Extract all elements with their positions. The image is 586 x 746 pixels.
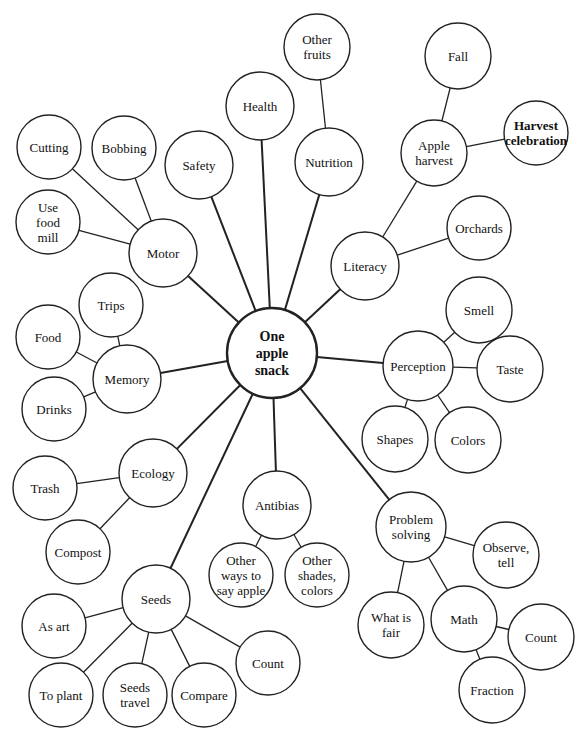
node-shapes: Shapes	[362, 406, 428, 472]
edge-perception-to-shapes	[405, 399, 408, 407]
node-label: ways to	[221, 568, 261, 583]
node-antibias: Antibias	[243, 471, 311, 539]
node-label: Other	[302, 553, 332, 568]
edge-antibias-to-other-shades	[294, 535, 301, 548]
edge-seeds-to-count-seeds	[186, 616, 241, 647]
edge-memory-to-trips	[118, 336, 120, 346]
edge-motor-to-bobbing	[135, 178, 151, 221]
node-orchards: Orchards	[447, 196, 511, 260]
edge-motor-to-use-food-mill	[79, 230, 130, 244]
node-literacy: Literacy	[331, 232, 399, 300]
node-label: Problem	[389, 512, 433, 527]
node-fraction: Fraction	[459, 657, 525, 723]
node-label: Taste	[496, 362, 523, 377]
node-label: To plant	[40, 688, 83, 703]
node-observe-tell: Observe,tell	[473, 522, 539, 588]
edge-center-to-perception	[317, 357, 383, 363]
node-label: Fraction	[470, 683, 514, 698]
node-label: One	[260, 329, 285, 344]
center-node: Oneapplesnack	[227, 308, 317, 398]
edge-literacy-to-orchards	[397, 238, 448, 255]
node-label: Bobbing	[102, 141, 147, 156]
node-label: Trash	[30, 481, 60, 496]
node-label: What is	[371, 610, 411, 625]
edge-ecology-to-trash	[77, 478, 120, 484]
node-label: Seeds	[120, 680, 150, 695]
edge-problem-solving-to-math	[429, 557, 448, 590]
node-label: Harvest	[514, 118, 559, 133]
node-label: Perception	[390, 359, 446, 374]
node-label: fruits	[303, 47, 330, 62]
edge-center-to-safety	[211, 197, 255, 311]
node-label: say apple	[217, 583, 266, 598]
node-food: Food	[16, 305, 80, 369]
node-label: celebration	[505, 133, 568, 148]
node-memory: Memory	[93, 345, 161, 413]
edge-seeds-to-compare	[171, 629, 190, 666]
node-label: Orchards	[455, 221, 503, 236]
node-other-ways: Otherways tosay apple	[209, 543, 273, 607]
node-label: mill	[38, 230, 59, 245]
edge-seeds-to-as-art	[85, 608, 123, 618]
node-label: travel	[120, 695, 150, 710]
node-label: fair	[382, 625, 401, 640]
node-safety: Safety	[165, 131, 233, 199]
node-label: Literacy	[343, 259, 387, 274]
node-label: Trips	[98, 298, 125, 313]
node-label: Nutrition	[305, 155, 353, 170]
node-harvest-celebration: Harvestcelebration	[504, 101, 568, 165]
node-label: Colors	[451, 433, 486, 448]
node-health: Health	[226, 72, 294, 140]
node-compost: Compost	[46, 520, 110, 584]
node-label: tell	[498, 555, 515, 570]
edge-perception-to-colors	[438, 395, 450, 413]
node-label: Cutting	[29, 140, 69, 155]
node-what-is-fair: What isfair	[358, 592, 424, 658]
edge-apple-harvest-to-fall	[442, 88, 450, 121]
node-label: Use	[38, 200, 58, 215]
node-label: Compost	[55, 545, 102, 560]
node-label: Count	[252, 656, 284, 671]
edge-center-to-antibias	[274, 398, 276, 471]
node-label: Count	[525, 630, 557, 645]
edge-nutrition-to-other-fruits	[320, 80, 325, 128]
edge-center-to-health	[262, 140, 270, 308]
node-perception: Perception	[383, 331, 453, 401]
node-taste: Taste	[477, 336, 543, 402]
node-label: Food	[35, 330, 62, 345]
edge-perception-to-smell	[444, 332, 455, 342]
node-ecology: Ecology	[119, 439, 187, 507]
node-other-shades: Othershades,colors	[285, 543, 349, 607]
node-bobbing: Bobbing	[92, 116, 156, 180]
apple-snack-web-diagram: SafetyHealthOtherfruitsNutritionFallAppl…	[0, 0, 586, 746]
edge-memory-to-drinks	[84, 392, 96, 397]
node-trash: Trash	[13, 456, 77, 520]
node-count-seeds: Count	[236, 631, 300, 695]
edge-perception-to-taste	[453, 367, 477, 368]
node-label: food	[36, 215, 60, 230]
node-label: Shapes	[377, 432, 414, 447]
edge-center-to-nutrition	[285, 195, 319, 310]
node-label: As art	[38, 619, 70, 634]
node-label: Other	[302, 32, 332, 47]
node-seeds: Seeds	[122, 565, 190, 633]
node-fall: Fall	[425, 23, 491, 89]
node-colors: Colors	[435, 407, 501, 473]
topic-nodes: SafetyHealthOtherfruitsNutritionFallAppl…	[13, 14, 574, 727]
node-label: colors	[301, 583, 333, 598]
node-label: Other	[226, 553, 256, 568]
node-label: Compare	[180, 688, 228, 703]
edge-math-to-fraction	[476, 650, 480, 660]
node-label: Motor	[147, 246, 180, 261]
node-other-fruits: Otherfruits	[284, 14, 350, 80]
edge-literacy-to-apple-harvest	[383, 181, 417, 237]
node-label: Apple	[418, 138, 450, 153]
node-motor: Motor	[129, 219, 197, 287]
node-drinks: Drinks	[22, 377, 86, 441]
node-label: Memory	[105, 372, 150, 387]
node-apple-harvest: Appleharvest	[401, 120, 467, 186]
node-label: Seeds	[141, 592, 171, 607]
node-label: solving	[392, 527, 431, 542]
node-as-art: As art	[22, 594, 86, 658]
edge-apple-harvest-to-harvest-celebration	[466, 139, 504, 147]
